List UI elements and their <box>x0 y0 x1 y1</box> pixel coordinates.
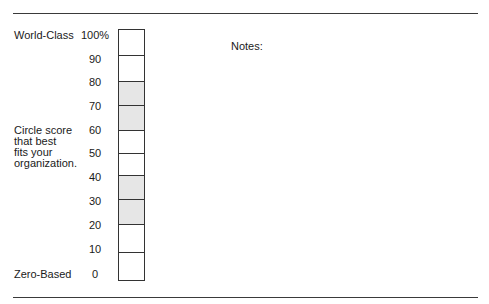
tick-40: 40 <box>80 172 110 183</box>
scale-cell-60-70[interactable] <box>119 105 144 130</box>
world-class-label: World-Class <box>14 30 74 41</box>
tick-90: 90 <box>80 54 110 65</box>
bottom-divider <box>13 297 478 298</box>
instruction-line-4: organization. <box>14 158 77 169</box>
tick-30: 30 <box>80 196 110 207</box>
scale-cell-50-60[interactable] <box>119 130 144 153</box>
scale-cell-40-50[interactable] <box>119 153 144 175</box>
zero-based-label: Zero-Based <box>14 269 71 280</box>
tick-0: 0 <box>80 269 110 280</box>
top-divider <box>13 13 478 14</box>
tick-80: 80 <box>80 77 110 88</box>
scale-cell-30-40[interactable] <box>119 175 144 199</box>
score-scale <box>118 29 145 281</box>
scale-cell-90-100[interactable] <box>119 30 144 55</box>
scale-cell-20-30[interactable] <box>119 199 144 224</box>
notes-label: Notes: <box>231 40 263 52</box>
tick-70: 70 <box>80 101 110 112</box>
tick-100: 100% <box>80 30 110 41</box>
scale-cell-70-80[interactable] <box>119 81 144 105</box>
scale-cell-10-20[interactable] <box>119 224 144 252</box>
tick-60: 60 <box>80 125 110 136</box>
tick-20: 20 <box>80 220 110 231</box>
tick-10: 10 <box>80 244 110 255</box>
scale-cell-0-10[interactable] <box>119 252 144 280</box>
tick-50: 50 <box>80 148 110 159</box>
scale-cell-80-90[interactable] <box>119 55 144 81</box>
